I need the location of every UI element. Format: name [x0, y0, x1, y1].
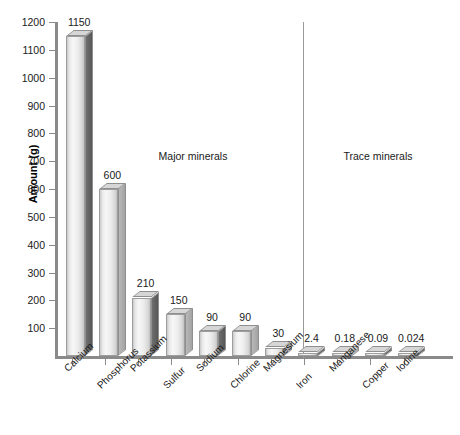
bar-value-label: 0.09	[368, 332, 388, 344]
bar-front-face	[66, 36, 85, 356]
x-tick-mark	[238, 359, 239, 365]
bar-side-face	[118, 183, 126, 356]
bar	[99, 189, 118, 356]
category-label: Iron	[294, 371, 314, 391]
bar-side-face	[85, 30, 93, 356]
x-tick-mark	[304, 359, 305, 365]
y-tick-label: 1100	[0, 44, 45, 56]
bar-front-face	[166, 314, 185, 356]
y-tick-mark	[49, 217, 55, 218]
category-label: Sulfur	[161, 365, 187, 391]
y-tick-label: 1200	[0, 16, 45, 28]
y-tick-label: 900	[0, 100, 45, 112]
y-tick-mark	[49, 22, 55, 23]
y-tick-mark	[49, 78, 55, 79]
group-divider-line	[303, 22, 304, 358]
bar	[166, 314, 185, 356]
bar-side-face	[185, 308, 193, 356]
y-tick-label: 600	[0, 183, 45, 195]
bar-front-face	[232, 331, 251, 356]
bar-value-label: 210	[137, 277, 155, 289]
y-tick-label: 800	[0, 127, 45, 139]
y-tick-mark	[49, 189, 55, 190]
y-tick-label: 500	[0, 211, 45, 223]
x-tick-mark	[171, 359, 172, 365]
y-tick-label: 1000	[0, 72, 45, 84]
bar	[66, 36, 85, 356]
bar-front-face	[99, 189, 118, 356]
bar-value-label: 30	[273, 327, 285, 339]
y-tick-mark	[49, 300, 55, 301]
y-tick-mark	[49, 273, 55, 274]
y-tick-mark	[49, 161, 55, 162]
y-tick-mark	[49, 245, 55, 246]
bar-value-label: 1150	[68, 16, 91, 28]
bar-value-label: 90	[206, 311, 218, 323]
y-tick-mark	[49, 50, 55, 51]
y-tick-mark	[49, 106, 55, 107]
bar-value-label: 600	[104, 169, 122, 181]
bar-value-label: 0.024	[398, 332, 424, 344]
y-tick-label: 300	[0, 267, 45, 279]
bar-value-label: 150	[170, 294, 188, 306]
mineral-amount-bar-chart: Amount (g) 10020030040050060070080090010…	[0, 0, 460, 435]
y-tick-label: 700	[0, 155, 45, 167]
category-label: Copper	[360, 360, 391, 391]
group-label: Trace minerals	[343, 150, 412, 162]
y-axis-line	[55, 22, 58, 358]
bar-value-label: 90	[239, 311, 251, 323]
bar-front-face	[365, 353, 384, 357]
y-tick-mark	[49, 133, 55, 134]
bar-front-face	[298, 353, 317, 357]
x-tick-mark	[370, 359, 371, 365]
x-tick-mark	[105, 359, 106, 365]
bar	[365, 353, 384, 357]
y-tick-label: 100	[0, 322, 45, 334]
group-label: Major minerals	[159, 150, 228, 162]
bar	[232, 331, 251, 356]
y-tick-label: 400	[0, 239, 45, 251]
bar-value-label: 2.4	[304, 332, 319, 344]
bar	[298, 353, 317, 357]
y-tick-label: 200	[0, 294, 45, 306]
y-tick-mark	[49, 328, 55, 329]
category-label: Chlorine	[228, 357, 262, 391]
